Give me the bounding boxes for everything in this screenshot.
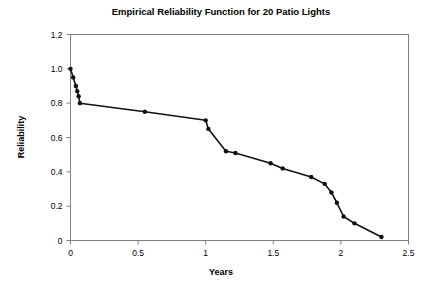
data-point-marker — [75, 89, 79, 93]
data-point-marker — [74, 84, 78, 88]
data-point-marker — [329, 190, 333, 194]
data-point-marker — [204, 118, 208, 122]
x-tick-label: 2 — [339, 248, 344, 258]
reliability-chart: Empirical Reliability Function for 20 Pa… — [0, 0, 442, 283]
y-tick-label: 0.6 — [51, 133, 63, 143]
data-point-marker — [379, 235, 383, 239]
data-point-marker — [233, 151, 237, 155]
data-point-marker — [143, 110, 147, 114]
x-tick-label: 2.5 — [403, 248, 415, 258]
y-tick-label: 0 — [58, 236, 63, 246]
y-tick-label: 0.2 — [51, 201, 63, 211]
data-point-marker — [78, 101, 82, 105]
plot-frame — [71, 35, 409, 241]
x-axis-title: Years — [209, 267, 233, 277]
x-tick-label: 1 — [203, 248, 208, 258]
y-tick-label: 1.2 — [51, 30, 63, 40]
data-point-marker — [322, 182, 326, 186]
data-series-markers — [68, 67, 383, 240]
data-point-marker — [335, 201, 339, 205]
data-point-marker — [71, 75, 75, 79]
x-axis-ticks: 00.511.522.5 — [68, 241, 415, 258]
chart-figure: Empirical Reliability Function for 20 Pa… — [0, 0, 442, 283]
data-point-marker — [281, 166, 285, 170]
y-axis-ticks: 00.20.40.60.81.01.2 — [51, 30, 71, 246]
data-point-marker — [341, 214, 345, 218]
data-point-marker — [352, 221, 356, 225]
y-tick-label: 0.4 — [51, 167, 63, 177]
data-point-marker — [268, 161, 272, 165]
data-point-marker — [68, 67, 72, 71]
data-point-marker — [206, 127, 210, 131]
data-point-marker — [224, 149, 228, 153]
x-tick-label: 0 — [68, 248, 73, 258]
x-tick-label: 0.5 — [132, 248, 144, 258]
data-point-marker — [76, 94, 80, 98]
y-tick-label: 1.0 — [51, 64, 63, 74]
y-tick-label: 0.8 — [51, 98, 63, 108]
y-axis-title: Reliability — [16, 116, 26, 159]
data-point-marker — [309, 175, 313, 179]
x-tick-label: 1.5 — [267, 248, 279, 258]
chart-title: Empirical Reliability Function for 20 Pa… — [112, 6, 331, 17]
